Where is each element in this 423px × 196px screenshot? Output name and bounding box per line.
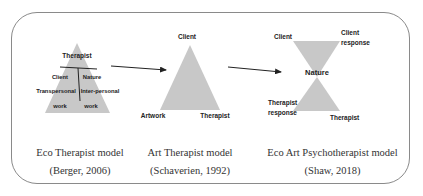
caption-citation: (Berger, 2006)	[20, 162, 140, 180]
label-client-response-1: Client	[341, 29, 360, 36]
eco-art-psychotherapist-diagram: Client Client response Nature Therapist …	[268, 29, 370, 122]
label-therapist: Therapist	[62, 52, 92, 60]
label-work-right: work	[83, 103, 98, 109]
caption-eco-art-psychotherapist: Eco Art Psychotherapist model (Shaw, 201…	[250, 144, 415, 180]
label-nature: Nature	[305, 68, 329, 77]
label-artwork: Artwork	[141, 112, 166, 119]
caption-citation: (Schaverien, 1992)	[130, 162, 250, 180]
label-client: Client	[52, 74, 68, 80]
label-therapist: Therapist	[330, 114, 360, 122]
arrow-2	[228, 67, 281, 72]
caption-citation: (Shaw, 2018)	[250, 162, 415, 180]
lower-triangle	[293, 77, 340, 111]
label-inter-personal: Inter-personal	[81, 88, 120, 94]
label-therapist: Therapist	[200, 112, 230, 120]
label-client: Client	[274, 33, 293, 40]
label-therapist-response-1: Therapist	[268, 99, 298, 107]
caption-title: Art Therapist model	[130, 144, 250, 162]
caption-art-therapist: Art Therapist model (Schaverien, 1992)	[130, 144, 250, 180]
caption-eco-therapist: Eco Therapist model (Berger, 2006)	[20, 144, 140, 180]
label-nature: Nature	[83, 74, 102, 80]
art-therapist-triangle	[160, 45, 220, 110]
art-therapist-diagram: Client Artwork Therapist	[141, 33, 231, 120]
label-transpersonal: Transpersonal	[36, 88, 76, 94]
eco-therapist-diagram: Therapist Client Nature Transpersonal In…	[36, 43, 120, 113]
caption-title: Eco Therapist model	[20, 144, 140, 162]
label-work-left: work	[52, 103, 67, 109]
label-client: Client	[178, 33, 197, 40]
label-therapist-response-2: response	[268, 109, 297, 117]
label-client-response-2: response	[341, 39, 370, 47]
caption-title: Eco Art Psychotherapist model	[250, 144, 415, 162]
arrow-1	[111, 66, 166, 70]
